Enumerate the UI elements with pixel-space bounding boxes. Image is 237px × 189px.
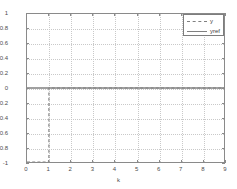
series-layer: [27, 14, 224, 162]
legend-line-sample-solid-icon: [187, 31, 207, 32]
y-tick-label: 0.8: [0, 25, 8, 31]
y-tick-label: 0.2: [0, 70, 8, 76]
x-tick-label: 1: [46, 166, 49, 172]
y-tick-label: 0.4: [0, 55, 8, 61]
series-line-y: [27, 88, 224, 162]
y-tick-label: -0.4: [0, 115, 8, 121]
x-tick-label: 5: [135, 166, 138, 172]
x-tick-label: 4: [113, 166, 116, 172]
y-tick-label: -0.8: [0, 145, 8, 151]
y-tick-label: -0.6: [0, 130, 8, 136]
x-tick-label: 2: [69, 166, 72, 172]
legend-entry-y: y: [184, 16, 223, 26]
legend-label-yref: yref: [210, 27, 220, 36]
x-tick-label: 6: [157, 166, 160, 172]
y-tick-label: -0.2: [0, 100, 8, 106]
x-tick-label: 3: [91, 166, 94, 172]
y-tick-label: 0: [0, 85, 8, 91]
x-tick-label: 0: [24, 166, 27, 172]
legend-line-sample-dashed-icon: [187, 21, 207, 22]
x-tick-label: 7: [179, 166, 182, 172]
y-tick-mark-right: [222, 163, 225, 164]
x-tick-label: 9: [223, 166, 226, 172]
x-tick-label: 8: [201, 166, 204, 172]
y-tick-mark: [26, 163, 29, 164]
legend-entry-yref: yref: [184, 26, 223, 36]
y-tick-label: -1: [0, 160, 8, 166]
y-tick-label: 0.6: [0, 40, 8, 46]
y-tick-label: 1: [0, 10, 8, 16]
figure-canvas: 10.80.60.40.20-0.2-0.4-0.6-0.8-1 0123456…: [0, 0, 237, 189]
x-tick-mark: [225, 160, 226, 163]
x-tick-mark-top: [225, 13, 226, 16]
legend-box: y yref: [183, 14, 224, 36]
x-axis-label: k: [0, 177, 237, 183]
legend-label-y: y: [210, 17, 213, 26]
